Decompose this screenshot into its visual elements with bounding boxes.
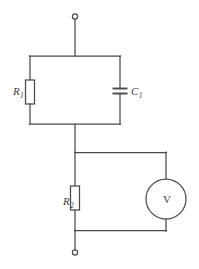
resistor-2-subscript: 2 <box>70 201 74 210</box>
resistor-1-label: R1 <box>13 86 23 97</box>
bottom-terminal-node <box>72 250 77 255</box>
circuit-diagram: R1 C1 R2 V <box>0 0 199 269</box>
capacitor-1-subscript: 1 <box>139 91 143 100</box>
resistor-1-body <box>26 80 35 104</box>
resistor-1-subscript: 1 <box>20 91 24 100</box>
capacitor-1-label: C1 <box>131 86 142 97</box>
circuit-schematic-svg <box>0 0 199 269</box>
capacitor-1-symbol: C <box>131 85 138 97</box>
resistor-1-symbol: R <box>13 85 20 97</box>
resistor-2-label: R2 <box>63 196 73 207</box>
top-terminal-node <box>72 14 77 19</box>
resistor-2-symbol: R <box>63 195 70 207</box>
voltmeter-label: V <box>150 194 184 205</box>
